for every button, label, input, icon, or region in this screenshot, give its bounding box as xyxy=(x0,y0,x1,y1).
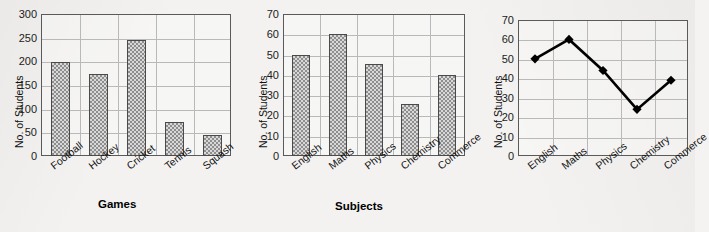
gridline-horizontal xyxy=(284,35,464,36)
gridline-vertical xyxy=(156,15,157,155)
bar-maths xyxy=(329,34,347,156)
y-axis-tick-label: 70 xyxy=(249,8,279,20)
y-axis-tick-label: 60 xyxy=(249,28,279,40)
bar-english xyxy=(292,55,310,156)
y-axis-tick-label: 40 xyxy=(249,69,279,81)
y-axis-tick-label: 20 xyxy=(249,109,279,121)
y-axis-tick-label: 100 xyxy=(7,103,37,115)
chart-games: No. of Students 050100150200250300 Footb… xyxy=(0,0,245,232)
gridline-vertical xyxy=(80,15,81,155)
y-axis-tick-label: 200 xyxy=(7,55,37,67)
gridline-vertical xyxy=(194,15,195,155)
gridline-vertical xyxy=(118,15,119,155)
gridline-vertical xyxy=(320,15,321,155)
y-axis-tick-label: 30 xyxy=(249,89,279,101)
gridline-vertical xyxy=(357,15,358,155)
y-axis-tick-label: 300 xyxy=(7,8,37,20)
chart-subjects-line-series xyxy=(470,0,695,232)
bar-football xyxy=(51,62,70,156)
bar-hockey xyxy=(89,74,108,156)
gridline-horizontal xyxy=(284,56,464,57)
y-axis-tick-label: 50 xyxy=(7,126,37,138)
y-axis-tick-label: 150 xyxy=(7,79,37,91)
chart-subjects-bar-x-axis-title: Subjects xyxy=(335,200,383,212)
chart-games-x-axis-title: Games xyxy=(98,198,136,210)
y-axis-tick-label: 10 xyxy=(249,130,279,142)
y-axis-tick-label: 0 xyxy=(249,150,279,162)
y-axis-tick-label: 250 xyxy=(7,32,37,44)
bar-physics xyxy=(365,64,383,156)
chart-subjects-bar: No. of Students 010203040506070 EnglishM… xyxy=(245,0,470,232)
y-axis-tick-label: 0 xyxy=(7,150,37,162)
gridline-vertical xyxy=(430,15,431,155)
y-axis-tick-label: 50 xyxy=(249,49,279,61)
bar-cricket xyxy=(127,40,146,156)
chart-subjects-line: No. of Students 010203040506070 EnglishM… xyxy=(470,0,695,232)
gridline-vertical xyxy=(393,15,394,155)
